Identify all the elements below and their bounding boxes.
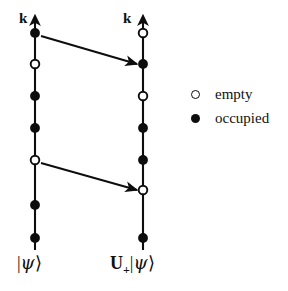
marker-occupied [138, 123, 148, 133]
right-axis-k-label: k [123, 11, 131, 26]
diagram-canvas [0, 0, 288, 291]
legend-item-empty: empty [186, 82, 269, 106]
marker-occupied [30, 200, 40, 210]
left-axis-state-label: |ψ⟩ [17, 254, 42, 272]
marker-empty [139, 186, 148, 195]
ket-close-right: ⟩ [148, 253, 155, 273]
right-axis-state-label: U+|ψ⟩ [110, 254, 155, 276]
legend-label-occupied: occupied [215, 111, 269, 126]
psi-symbol-right: ψ [133, 252, 147, 273]
axis-lines-group [35, 20, 143, 250]
axis-markers-group [30, 28, 148, 243]
ket-close-left: ⟩ [35, 253, 42, 273]
circle-filled-icon [186, 114, 204, 123]
marker-occupied [30, 28, 40, 38]
transition-arrow [41, 36, 137, 64]
operator-subscript: + [123, 263, 130, 277]
marker-occupied [138, 233, 148, 243]
legend-label-empty: empty [215, 87, 253, 102]
legend-item-occupied: occupied [186, 106, 269, 130]
marker-occupied [30, 91, 40, 101]
operator-symbol: U [110, 253, 123, 273]
marker-occupied [138, 59, 148, 69]
left-axis-k-label: k [19, 11, 27, 26]
marker-empty [31, 60, 40, 69]
occupation-number-diagram: k k |ψ⟩ U+|ψ⟩ empty occupied [0, 0, 288, 291]
psi-symbol-left: ψ [21, 252, 35, 273]
marker-occupied [30, 233, 40, 243]
circle-open-icon [186, 90, 204, 99]
transition-arrow [41, 163, 137, 190]
legend: empty occupied [186, 82, 269, 130]
marker-occupied [30, 123, 40, 133]
marker-empty [139, 29, 148, 38]
transition-arrows-group [41, 36, 137, 190]
marker-empty [139, 92, 148, 101]
marker-occupied [138, 155, 148, 165]
marker-empty [31, 156, 40, 165]
